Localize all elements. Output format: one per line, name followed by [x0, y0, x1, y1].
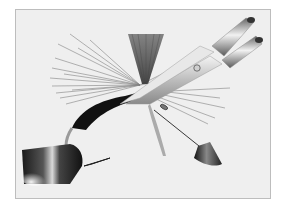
scissors-pivot [194, 65, 200, 71]
falling-hackle [148, 104, 166, 156]
illustration-stage [0, 0, 284, 207]
vise-jaw [20, 144, 83, 186]
fly-tying-illustration [0, 0, 284, 207]
bodkin-needle [154, 110, 222, 166]
hook [66, 128, 72, 146]
hook-point [84, 158, 110, 166]
